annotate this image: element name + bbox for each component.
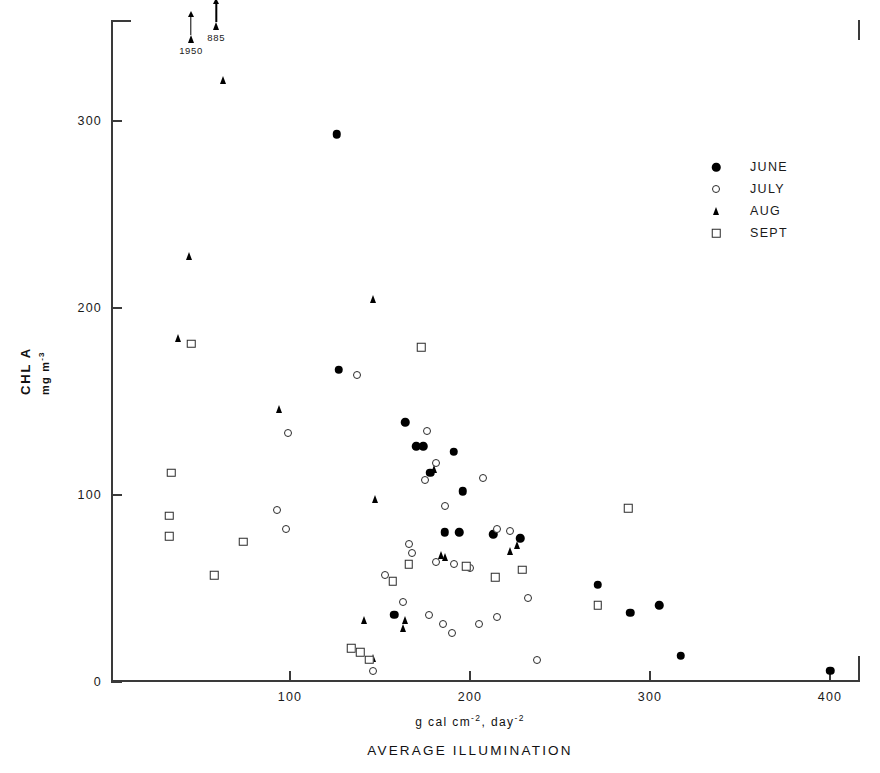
data-point-july bbox=[425, 611, 433, 619]
x-tick bbox=[649, 671, 651, 682]
data-point-june bbox=[594, 581, 603, 590]
top-right-frame-stub bbox=[858, 20, 860, 40]
legend-item-july[interactable]: JULY bbox=[708, 178, 838, 200]
data-point-aug bbox=[186, 252, 192, 260]
x-tick bbox=[289, 671, 291, 682]
y-tick bbox=[111, 120, 122, 122]
data-point-june bbox=[455, 528, 464, 537]
data-point-june bbox=[826, 667, 835, 676]
data-point-aug bbox=[175, 334, 181, 342]
data-point-aug bbox=[431, 465, 437, 473]
data-point-june bbox=[655, 601, 664, 610]
data-point-july bbox=[533, 656, 541, 664]
data-point-sept bbox=[388, 577, 397, 586]
y-tick-label: 0 bbox=[56, 675, 102, 689]
y-axis-title-units: mg m-3 bbox=[37, 347, 51, 395]
arrow-up-icon bbox=[190, 15, 191, 35]
legend-label: AUG bbox=[750, 204, 781, 218]
data-point-sept bbox=[356, 648, 365, 657]
data-point-june bbox=[676, 652, 685, 661]
legend-item-aug[interactable]: AUG bbox=[708, 200, 838, 222]
data-point-july bbox=[524, 594, 532, 602]
data-point-aug bbox=[213, 22, 219, 30]
data-point-sept bbox=[417, 343, 426, 352]
data-point-aug bbox=[370, 295, 376, 303]
data-point-july bbox=[439, 620, 447, 628]
y-tick bbox=[111, 307, 122, 309]
data-point-july bbox=[399, 598, 407, 606]
data-point-july bbox=[273, 506, 281, 514]
data-point-sept bbox=[165, 511, 174, 520]
data-point-june bbox=[419, 442, 428, 451]
data-point-sept bbox=[624, 504, 633, 513]
legend: JUNEJULYAUGSEPT bbox=[708, 156, 838, 244]
data-point-aug bbox=[507, 547, 513, 555]
x-axis-units-label: g cal cm-2, day-2 bbox=[415, 713, 525, 729]
bottom-right-frame-stub bbox=[858, 656, 860, 682]
data-point-june bbox=[390, 610, 399, 619]
legend-label: SEPT bbox=[750, 226, 788, 240]
legend-marker-open-square-icon bbox=[712, 229, 721, 238]
y-tick bbox=[111, 681, 122, 683]
plot-area: 1950885 bbox=[111, 20, 860, 682]
data-point-july bbox=[405, 540, 413, 548]
data-point-sept bbox=[347, 644, 356, 653]
data-point-july bbox=[369, 667, 377, 675]
data-point-sept bbox=[365, 655, 374, 664]
y-axis-title-main: CHL A bbox=[18, 347, 33, 395]
data-point-june bbox=[333, 130, 342, 139]
data-point-aug bbox=[442, 553, 448, 561]
data-point-aug bbox=[361, 616, 367, 624]
x-tick-label: 400 bbox=[818, 690, 842, 704]
data-point-july bbox=[441, 502, 449, 510]
data-point-aug bbox=[276, 405, 282, 413]
arrow-head-icon bbox=[188, 11, 194, 17]
data-point-sept bbox=[210, 571, 219, 580]
data-point-july bbox=[282, 525, 290, 533]
data-point-aug bbox=[372, 495, 378, 503]
legend-marker-filled-triangle-icon bbox=[713, 207, 719, 215]
data-point-july bbox=[450, 560, 458, 568]
data-point-june bbox=[459, 487, 468, 496]
data-point-july bbox=[479, 474, 487, 482]
data-point-aug bbox=[188, 35, 194, 43]
data-point-july bbox=[506, 527, 514, 535]
y-tick-label: 300 bbox=[56, 114, 102, 128]
x-tick-label: 200 bbox=[458, 690, 482, 704]
data-point-july bbox=[284, 429, 292, 437]
data-point-sept bbox=[405, 560, 414, 569]
data-point-aug bbox=[220, 76, 226, 84]
offscale-annotation-label: 885 bbox=[207, 32, 225, 43]
data-point-sept bbox=[594, 601, 603, 610]
x-tick-label: 300 bbox=[638, 690, 662, 704]
y-tick-label: 200 bbox=[56, 301, 102, 315]
x-axis-line bbox=[111, 680, 860, 682]
data-point-sept bbox=[462, 562, 471, 571]
data-point-july bbox=[408, 549, 416, 557]
data-point-sept bbox=[491, 573, 500, 582]
arrow-head-icon bbox=[213, 0, 219, 4]
chart-title: AVERAGE ILLUMINATION bbox=[367, 743, 573, 758]
y-tick-label: 100 bbox=[56, 488, 102, 502]
data-point-sept bbox=[187, 339, 196, 348]
data-point-sept bbox=[239, 538, 248, 547]
data-point-july bbox=[475, 620, 483, 628]
legend-item-sept[interactable]: SEPT bbox=[708, 222, 838, 244]
x-tick-label: 100 bbox=[278, 690, 302, 704]
data-point-july bbox=[353, 371, 361, 379]
data-point-july bbox=[423, 427, 431, 435]
data-point-july bbox=[448, 629, 456, 637]
data-point-june bbox=[334, 365, 343, 374]
data-point-aug bbox=[400, 624, 406, 632]
data-point-june bbox=[441, 528, 450, 537]
data-point-june bbox=[626, 609, 635, 618]
x-tick bbox=[469, 671, 471, 682]
data-point-july bbox=[432, 558, 440, 566]
data-point-july bbox=[421, 476, 429, 484]
y-axis-title: CHL A mg m-3 bbox=[16, 347, 51, 395]
legend-item-june[interactable]: JUNE bbox=[708, 156, 838, 178]
offscale-annotation-label: 1950 bbox=[179, 45, 203, 56]
data-point-sept bbox=[167, 468, 176, 477]
legend-marker-open-circle-icon bbox=[712, 185, 720, 193]
arrow-up-icon bbox=[215, 2, 216, 22]
